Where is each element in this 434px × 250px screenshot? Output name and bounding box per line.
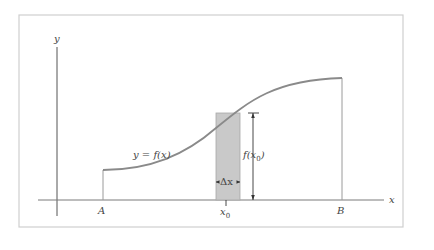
y-axis-label: y xyxy=(53,33,60,44)
label-a: A xyxy=(97,205,105,216)
figure-frame xyxy=(19,15,403,227)
x-axis-label: x xyxy=(389,194,395,205)
area-under-curve-diagram: y x y = f(x) A B x0 Δx f(x0) xyxy=(0,0,434,250)
label-x0: x0 xyxy=(220,206,230,220)
curve-label: y = f(x) xyxy=(132,149,171,160)
delta-x-label: Δx xyxy=(220,176,233,187)
label-b: B xyxy=(336,205,344,216)
